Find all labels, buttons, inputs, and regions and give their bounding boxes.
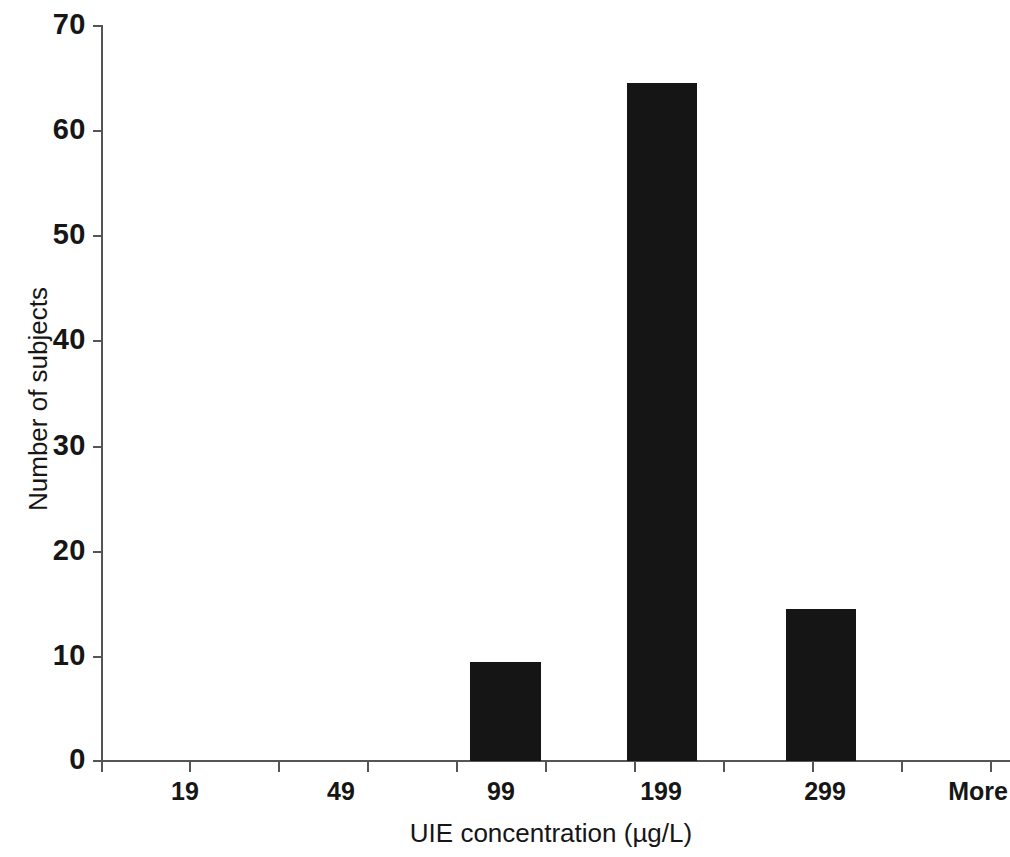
x-axis-tick-label: More: [948, 779, 1008, 804]
y-axis-line: [101, 25, 103, 762]
bar-199: [627, 83, 697, 761]
y-axis-tick: [93, 446, 102, 448]
y-axis-tick: [93, 551, 102, 553]
x-axis-tick: [101, 762, 103, 772]
bar-chart: 70 60 50 40 30 20 10 0 19 49 99 199 299 …: [0, 0, 1010, 857]
bar-299: [786, 609, 856, 761]
x-axis-title: UIE concentration (µg/L): [410, 820, 692, 846]
x-axis-tick-label: 19: [171, 779, 199, 804]
y-axis-tick: [93, 340, 102, 342]
x-axis-tick: [189, 762, 191, 772]
y-axis-tick-label: 70: [14, 10, 86, 39]
y-axis-title: Number of subjects: [25, 119, 51, 679]
x-axis-tick-label: 199: [640, 779, 682, 804]
x-axis-tick-label: 49: [327, 779, 355, 804]
y-axis-tick: [93, 25, 102, 27]
y-axis-tick: [93, 235, 102, 237]
x-axis-tick-label: 99: [487, 779, 515, 804]
y-axis-tick: [93, 130, 102, 132]
x-axis-tick: [367, 762, 369, 772]
y-axis-tick-label: 0: [14, 745, 86, 774]
x-axis-tick: [634, 762, 636, 772]
x-axis-tick: [278, 762, 280, 772]
x-axis-line: [101, 760, 1010, 762]
x-axis-tick: [456, 762, 458, 772]
x-axis-tick: [812, 762, 814, 772]
x-axis-title-container: UIE concentration (µg/L): [0, 820, 1010, 846]
y-axis-tick: [93, 656, 102, 658]
x-axis-tick: [723, 762, 725, 772]
x-axis-tick: [901, 762, 903, 772]
x-axis-tick-label: 299: [804, 779, 846, 804]
x-axis-tick: [990, 762, 992, 772]
x-axis-tick: [545, 762, 547, 772]
bar-99: [470, 662, 541, 761]
